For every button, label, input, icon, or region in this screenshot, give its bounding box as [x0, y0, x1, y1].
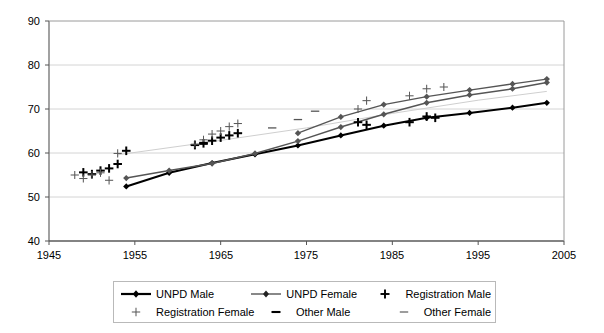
- life-expectancy-chart: 90 80 70 60 50 40 1945 1955 1965 1975 19…: [0, 0, 604, 333]
- data-point-marker: [338, 114, 344, 120]
- legend-label: Registration Female: [154, 306, 254, 318]
- legend-label: UNPD Female: [284, 288, 357, 300]
- data-point-marker: [123, 183, 129, 189]
- data-point-marker: [544, 76, 550, 82]
- line-diamond-thin-icon: [248, 287, 284, 301]
- legend-item-unpd-male[interactable]: UNPD Male: [118, 287, 248, 301]
- data-point-marker: [509, 81, 515, 87]
- dash-bold-icon: [258, 305, 294, 319]
- data-point-marker: [466, 110, 472, 116]
- data-point-marker: [338, 124, 344, 130]
- data-point-marker: [466, 87, 472, 93]
- data-point-marker: [295, 138, 301, 144]
- chart-legend: UNPD Male UNPD Female Re: [113, 281, 496, 323]
- legend-item-other-female[interactable]: Other Female: [386, 305, 491, 319]
- legend-item-registration-female[interactable]: Registration Female: [118, 305, 258, 319]
- legend-row: UNPD Male UNPD Female Re: [118, 285, 491, 303]
- data-point-marker: [381, 111, 387, 117]
- series-line: [126, 83, 547, 179]
- legend-label: Registration Male: [403, 288, 491, 300]
- data-point-marker: [338, 132, 344, 138]
- series-line: [298, 79, 547, 133]
- legend-row: Registration Female Other Male Other Fem…: [118, 303, 491, 321]
- dash-thin-icon: [386, 305, 422, 319]
- legend-label: UNPD Male: [154, 288, 214, 300]
- line-diamond-bold-icon: [118, 287, 154, 301]
- data-point-marker: [424, 100, 430, 106]
- legend-label: Other Male: [294, 306, 350, 318]
- data-point-marker: [209, 160, 215, 166]
- plus-bold-icon: [367, 287, 403, 301]
- data-point-marker: [544, 100, 550, 106]
- plus-thin-icon: [118, 305, 154, 319]
- data-point-marker: [381, 123, 387, 129]
- data-point-marker: [295, 130, 301, 136]
- data-point-marker: [381, 102, 387, 108]
- data-point-marker: [123, 175, 129, 181]
- legend-label: Other Female: [422, 306, 491, 318]
- guide-line: [118, 91, 547, 154]
- data-point-marker: [424, 94, 430, 100]
- legend-item-unpd-female[interactable]: UNPD Female: [248, 287, 367, 301]
- legend-item-registration-male[interactable]: Registration Male: [367, 287, 491, 301]
- data-point-marker: [509, 105, 515, 111]
- legend-item-other-male[interactable]: Other Male: [258, 305, 386, 319]
